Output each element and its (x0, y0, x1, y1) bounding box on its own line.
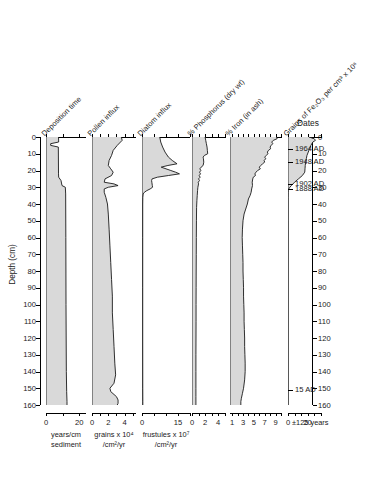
panel-bottom-tick (232, 413, 233, 416)
panel-bottom-tick (133, 413, 134, 416)
panel-tick-label: 2 (99, 418, 117, 427)
panel-bottom-tick (218, 413, 219, 416)
profile-curve-phosphorus (192, 137, 228, 407)
panel-bottom-tick (116, 413, 117, 416)
depth-axis-left (40, 137, 41, 405)
panel-bottom-tick (288, 413, 289, 416)
date-tick (288, 184, 293, 185)
depth-tick (36, 338, 40, 339)
depth-tick (36, 288, 40, 289)
panel-tick-label: 0 (37, 418, 55, 427)
date-tick (288, 390, 293, 391)
date-label: 1948 AD (295, 157, 324, 166)
date-label: 1888 AD (295, 184, 324, 193)
panel-iron (230, 137, 282, 405)
panel-bottom-tick (308, 413, 309, 416)
depth-tick (36, 355, 40, 356)
panel-bottom-tick (199, 413, 200, 416)
panel-bottom-tick (281, 413, 282, 416)
panel-bottom-tick (254, 413, 255, 416)
panel-bottom-tick (125, 413, 126, 416)
depth-tick (36, 321, 40, 322)
panel-diatom-influx (142, 137, 190, 405)
panel-bottom-tick (192, 413, 193, 416)
panel-bottom-axis (92, 413, 136, 414)
panel-header-diatom-influx: Diatom influx (136, 101, 173, 138)
depth-tick (36, 221, 40, 222)
panel-bottom-axis (192, 413, 226, 414)
panel-bottom-tick (190, 413, 191, 416)
date-error-label: ±125 years (292, 418, 329, 427)
depth-tick (36, 238, 40, 239)
depth-tick (36, 137, 40, 138)
depth-tick (36, 388, 40, 389)
depth-tick (36, 187, 40, 188)
profile-curve-iron (230, 137, 284, 407)
panel-header-deposition-time: Deposition time (40, 95, 83, 138)
panel-header-fe2o3-grains: Grains of Fe₂O₃ per cm³ x 10⁶ (282, 60, 360, 138)
depth-tick (36, 305, 40, 306)
stratigraphic-profile-figure: Depth (cm) Dates 01020304050607080901001… (0, 0, 375, 482)
profile-curve-diatom-influx (142, 137, 192, 407)
panel-pollen-influx (92, 137, 136, 405)
depth-tick-label: 90 (14, 283, 36, 292)
depth-tick-label: 70 (14, 250, 36, 259)
panel-bottom-tick (295, 413, 296, 416)
panel-header-iron: % Iron (in ash) (224, 97, 265, 138)
depth-tick-label: 110 (14, 317, 36, 326)
panel-bottom-tick (154, 413, 155, 416)
date-tick (288, 149, 293, 150)
panel-bottom-tick (63, 413, 64, 416)
panel-bottom-tick (46, 413, 47, 416)
profile-curve-fe2o3-grains (288, 137, 324, 407)
panel-bottom-tick (314, 413, 315, 416)
depth-tick-label: 130 (14, 350, 36, 359)
panel-bottom-tick (248, 413, 249, 416)
depth-tick (36, 204, 40, 205)
panel-deposition-time (46, 137, 86, 405)
panel-bottom-tick (142, 413, 143, 416)
depth-tick-label: 120 (14, 334, 36, 343)
panel-tick-label: 0 (133, 418, 151, 427)
panel-bottom-tick (205, 413, 206, 416)
panel-bottom-tick (92, 413, 93, 416)
depth-tick-label: 10 (14, 149, 36, 158)
depth-tick-label: 80 (14, 267, 36, 276)
panel-bottom-tick (100, 413, 101, 416)
panel-bottom-tick (270, 413, 271, 416)
depth-tick-label: 160 (14, 401, 36, 410)
panel-bottom-tick (265, 413, 266, 416)
panel-bottom-tick (225, 413, 226, 416)
panel-unit-caption-diatom-influx: frustules x 10⁷/cm²/yr (130, 430, 202, 449)
date-label: 15 AD (295, 385, 316, 394)
depth-tick-label: 60 (14, 233, 36, 242)
depth-tick (36, 271, 40, 272)
depth-tick (36, 171, 40, 172)
panel-tick-label: 4 (116, 418, 134, 427)
panel-bottom-tick (108, 413, 109, 416)
profile-curve-deposition-time (46, 137, 88, 407)
panel-bottom-tick (243, 413, 244, 416)
date-label: 1964 AD (295, 144, 324, 153)
depth-tick (36, 254, 40, 255)
panel-bottom-tick (166, 413, 167, 416)
panel-phosphorus (192, 137, 226, 405)
panel-bottom-tick (301, 413, 302, 416)
profile-curve-pollen-influx (92, 137, 138, 407)
panel-bottom-tick (321, 413, 322, 416)
depth-tick (36, 154, 40, 155)
date-tick (288, 162, 293, 163)
depth-tick (36, 405, 40, 406)
panel-bottom-tick (79, 413, 80, 416)
panel-bottom-tick (276, 413, 277, 416)
panel-bottom-tick (212, 413, 213, 416)
depth-tick-label: 30 (14, 183, 36, 192)
panel-bottom-tick (259, 413, 260, 416)
panel-fe2o3-grains (288, 137, 322, 405)
depth-tick-label: 140 (14, 367, 36, 376)
depth-tick-label: 100 (14, 300, 36, 309)
depth-tick-label: 40 (14, 200, 36, 209)
date-tick (288, 189, 293, 190)
panel-bottom-tick (238, 413, 239, 416)
panel-bottom-tick (178, 413, 179, 416)
